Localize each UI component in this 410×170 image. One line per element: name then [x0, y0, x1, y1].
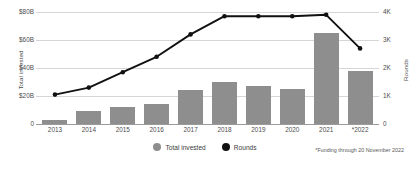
legend-label: Rounds [234, 144, 257, 151]
gridline-0 [36, 124, 379, 125]
rounds-marker-2015 [120, 70, 125, 75]
plot-area [36, 12, 379, 124]
y-tick-left-3: $60B [19, 37, 34, 43]
chart-container: Total invested Rounds 0$20B$40B$60B$80B … [0, 0, 410, 170]
y-tick-left-4: $80B [19, 9, 34, 15]
x-label-2013: 2013 [38, 126, 72, 133]
x-label-2014: 2014 [72, 126, 106, 133]
rounds-marker-2013 [53, 92, 58, 97]
y-tick-right-0: 0 [383, 121, 387, 127]
rounds-marker-2022 [358, 46, 363, 51]
y-axis-right-ticks: 01K2K3K4K [381, 12, 403, 124]
legend-label: Total invested [165, 144, 205, 151]
x-label-2019: 2019 [241, 126, 275, 133]
y-axis-right-title: Rounds [403, 59, 410, 81]
x-label-2015: 2015 [106, 126, 140, 133]
y-tick-left-2: $40B [19, 65, 34, 71]
y-tick-right-3: 3K [383, 37, 391, 43]
rounds-line-path [55, 15, 360, 95]
circle-gray-icon [153, 143, 161, 151]
line-series-rounds [36, 12, 379, 124]
y-tick-right-2: 2K [383, 65, 391, 71]
circle-black-icon [222, 143, 230, 151]
x-label-2018: 2018 [208, 126, 242, 133]
y-tick-left-0: 0 [30, 121, 34, 127]
x-label-2020: 2020 [275, 126, 309, 133]
legend-item[interactable]: Rounds [222, 143, 257, 151]
rounds-marker-2014 [87, 85, 92, 90]
x-label-2022: *2022 [343, 126, 377, 133]
x-label-2021: 2021 [309, 126, 343, 133]
rounds-marker-2020 [290, 14, 295, 19]
y-tick-right-4: 4K [383, 9, 391, 15]
y-tick-right-1: 1K [383, 93, 391, 99]
rounds-marker-2017 [188, 32, 193, 37]
y-tick-left-1: $20B [19, 93, 34, 99]
footnote: *Funding through 20 November 2022 [315, 147, 404, 153]
x-axis-labels: 201320142015201620172018201920202021*202… [36, 126, 379, 133]
rounds-marker-2016 [154, 55, 159, 60]
x-label-2016: 2016 [140, 126, 174, 133]
legend-item[interactable]: Total invested [153, 143, 205, 151]
rounds-marker-2019 [256, 14, 261, 19]
rounds-marker-2018 [222, 14, 227, 19]
rounds-marker-2021 [324, 13, 329, 18]
x-label-2017: 2017 [174, 126, 208, 133]
y-axis-left-ticks: 0$20B$40B$60B$80B [9, 12, 35, 124]
